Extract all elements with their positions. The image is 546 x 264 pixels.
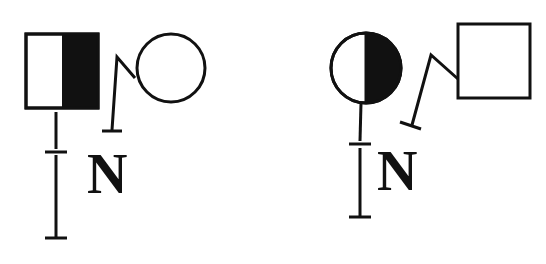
square-shaded-half <box>62 34 98 108</box>
half-shaded-circle-female <box>331 33 401 103</box>
partner-line-end-tick <box>400 122 421 129</box>
pedigree-diagram: N N <box>0 0 546 264</box>
partner-zigzag-line <box>112 57 135 130</box>
left-group: N <box>26 34 205 238</box>
half-shaded-square-male <box>26 34 98 108</box>
label-n-left: N <box>87 143 127 205</box>
empty-circle-female <box>137 34 205 102</box>
partner-zigzag-line <box>412 55 458 125</box>
circle-shaded-half <box>366 33 401 103</box>
right-group: N <box>331 24 530 217</box>
empty-square-male <box>458 24 530 98</box>
label-n-right: N <box>377 140 417 202</box>
descent-line-upper <box>360 103 361 141</box>
